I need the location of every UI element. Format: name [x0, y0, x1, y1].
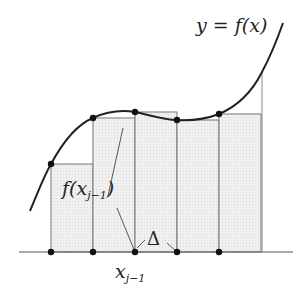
partition-dot [90, 115, 96, 121]
partition-dot [132, 249, 138, 255]
partition-dot [174, 249, 180, 255]
curve-label: y = f(x) [196, 14, 267, 36]
delta-label: Δ [147, 228, 160, 249]
partition-dot [174, 117, 180, 123]
partition-dot [90, 249, 96, 255]
point-label: xj−1 [115, 260, 145, 285]
partition-dot [132, 109, 138, 115]
partition-dot [216, 249, 222, 255]
partition-dot [216, 111, 222, 117]
height-label: f(xj−1) [62, 177, 114, 202]
partition-dot [48, 249, 54, 255]
partition-dot [48, 161, 54, 167]
riemann-rectangle [219, 114, 261, 252]
riemann-rectangle [177, 120, 219, 252]
diagram-canvas [0, 0, 300, 295]
riemann-sum-diagram: y = f(x) f(xj−1) Δ xj−1 [0, 0, 300, 295]
